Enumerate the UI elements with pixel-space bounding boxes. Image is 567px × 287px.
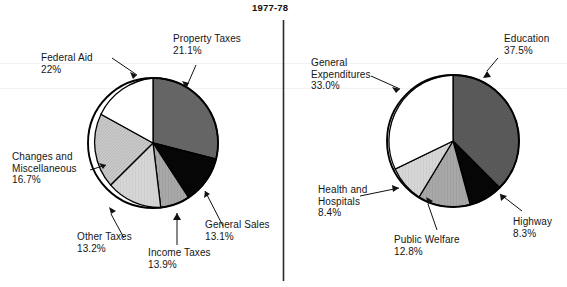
label-health-and-hospitals-name: Health and <box>318 184 367 196</box>
label-general-sales-value: 13.1% <box>205 231 270 243</box>
label-health-and-hospitals-name2: Hospitals <box>318 196 367 208</box>
label-education-value: 37.5% <box>504 45 549 57</box>
label-other-taxes-value: 13.2% <box>77 243 132 255</box>
label-changes-miscellaneous-name: Changes and <box>12 151 77 163</box>
label-income-taxes: Income Taxes 13.9% <box>148 247 211 270</box>
label-changes-miscellaneous: Changes and Miscellaneous 16.7% <box>12 151 77 186</box>
expenditure-pie-chart <box>387 75 519 207</box>
label-general-sales: General Sales 13.1% <box>205 219 270 242</box>
label-federal-aid-name: Federal Aid <box>41 52 93 64</box>
label-property-taxes-value: 21.1% <box>173 45 241 57</box>
label-education: Education 37.5% <box>504 33 549 56</box>
label-changes-miscellaneous-value: 16.7% <box>12 174 77 186</box>
label-other-taxes: Other Taxes 13.2% <box>77 231 132 254</box>
label-general-expenditures-name: General <box>311 57 371 69</box>
label-general-sales-name: General Sales <box>205 219 270 231</box>
label-public-welfare: Public Welfare 12.8% <box>394 234 460 257</box>
label-federal-aid-value: 22% <box>41 64 93 76</box>
label-property-taxes-name: Property Taxes <box>173 33 241 45</box>
label-public-welfare-name: Public Welfare <box>394 234 460 246</box>
label-income-taxes-value: 13.9% <box>148 259 211 271</box>
label-general-expenditures-value: 33.0% <box>311 80 371 92</box>
label-health-and-hospitals-value: 8.4% <box>318 207 367 219</box>
label-general-expenditures: General Expenditures 33.0% <box>311 57 371 92</box>
label-income-taxes-name: Income Taxes <box>148 247 211 259</box>
label-public-welfare-value: 12.8% <box>394 246 460 258</box>
revenue-pie-chart <box>88 78 218 208</box>
label-changes-miscellaneous-name2: Miscellaneous <box>12 163 77 175</box>
year-label: 1977-78 <box>252 2 288 13</box>
label-highway: Highway 8.3% <box>513 216 552 239</box>
label-other-taxes-name: Other Taxes <box>77 231 132 243</box>
figure-canvas: 1977-78 Federal Aid 22% Property Taxes 2… <box>0 0 567 287</box>
label-education-name: Education <box>504 33 549 45</box>
label-health-and-hospitals: Health and Hospitals 8.4% <box>318 184 367 219</box>
label-property-taxes: Property Taxes 21.1% <box>173 33 241 56</box>
label-highway-name: Highway <box>513 216 552 228</box>
label-general-expenditures-name2: Expenditures <box>311 69 371 81</box>
label-federal-aid: Federal Aid 22% <box>41 52 93 75</box>
label-highway-value: 8.3% <box>513 228 552 240</box>
